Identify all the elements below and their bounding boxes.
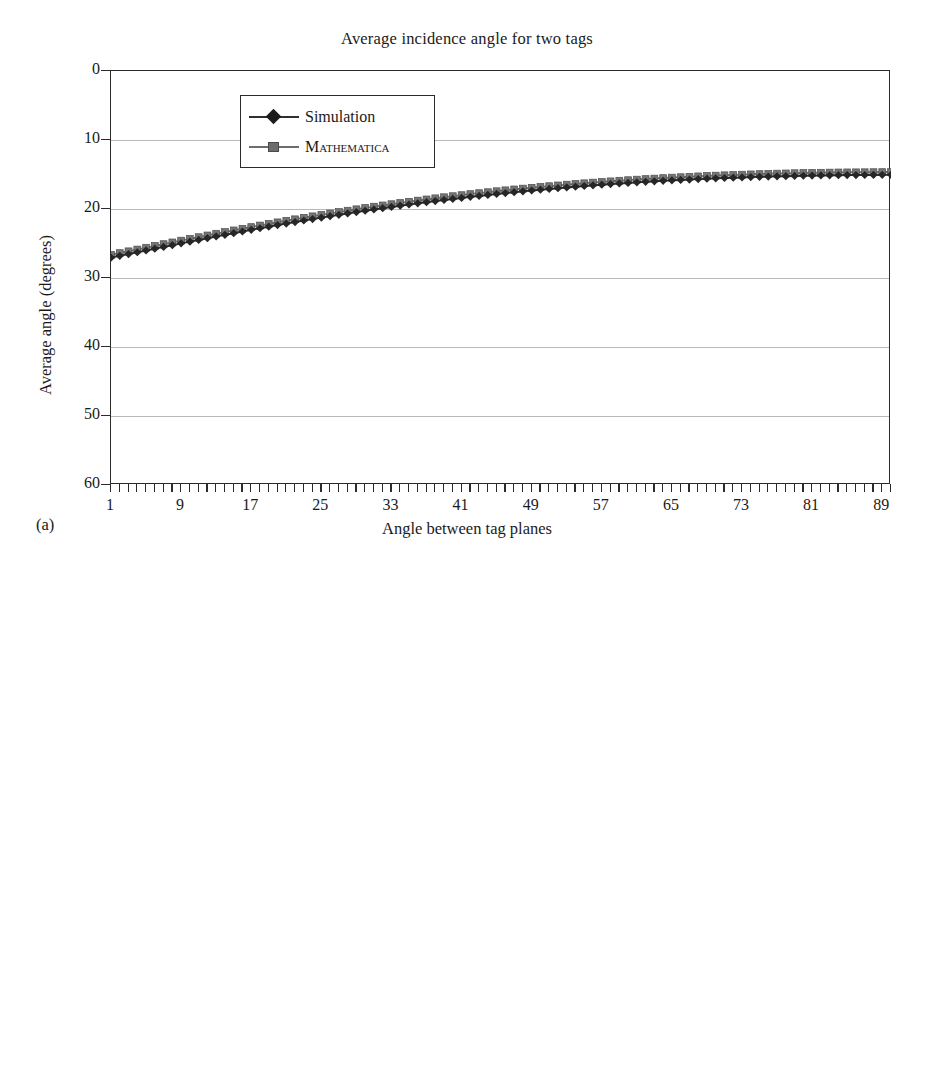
y-tick-label: 60: [48, 475, 100, 491]
x-tick-minor: [469, 484, 470, 492]
y-tick-mark: [101, 277, 110, 278]
x-tick-minor: [776, 484, 777, 492]
x-tick-minor: [767, 484, 768, 492]
x-tick-minor: [136, 484, 137, 492]
x-tick-label: 17: [242, 496, 258, 514]
x-axis-title-a: Angle between tag planes: [0, 519, 934, 539]
x-tick-minor: [864, 484, 865, 492]
x-tick-minor: [426, 484, 427, 492]
x-tick-minor: [890, 484, 891, 492]
x-tick-minor: [504, 484, 505, 492]
x-tick-minor: [802, 484, 803, 492]
y-tick-mark: [101, 70, 110, 71]
x-tick-minor: [443, 484, 444, 492]
x-tick-minor: [522, 484, 523, 492]
x-tick-minor: [680, 484, 681, 492]
x-tick-minor: [241, 484, 242, 492]
x-tick-minor: [715, 484, 716, 492]
x-tick-minor: [539, 484, 540, 492]
y-tick-label: 50: [48, 406, 100, 422]
series-layer-a: [111, 71, 889, 483]
x-tick-minor: [128, 484, 129, 492]
x-tick-minor: [653, 484, 654, 492]
x-tick-minor: [574, 484, 575, 492]
x-tick-minor: [364, 484, 365, 492]
x-tick-minor: [785, 484, 786, 492]
x-tick-minor: [610, 484, 611, 492]
x-tick-minor: [171, 484, 172, 492]
x-tick-minor: [662, 484, 663, 492]
x-tick-label: 57: [593, 496, 609, 514]
y-tick-mark: [101, 484, 110, 485]
subfigure-label-a: (a): [36, 515, 54, 535]
x-tick-minor: [259, 484, 260, 492]
x-tick-minor: [636, 484, 637, 492]
y-tick-label: 10: [48, 130, 100, 146]
x-tick-minor: [759, 484, 760, 492]
legend-label-simulation: Simulation: [305, 108, 375, 126]
x-tick-label: 9: [176, 496, 184, 514]
x-tick-minor: [373, 484, 374, 492]
x-tick-minor: [487, 484, 488, 492]
x-tick-minor: [645, 484, 646, 492]
x-tick-minor: [320, 484, 321, 492]
x-tick-minor: [732, 484, 733, 492]
x-tick-minor: [820, 484, 821, 492]
figure-root: Average incidence angle for two tags 010…: [0, 0, 934, 1086]
x-tick-minor: [513, 484, 514, 492]
y-tick-mark: [101, 346, 110, 347]
x-tick-minor: [601, 484, 602, 492]
x-tick-minor: [723, 484, 724, 492]
x-tick-minor: [215, 484, 216, 492]
x-tick-minor: [347, 484, 348, 492]
x-tick-minor: [627, 484, 628, 492]
x-tick-minor: [189, 484, 190, 492]
x-tick-minor: [496, 484, 497, 492]
x-tick-minor: [417, 484, 418, 492]
plot-area-a: [110, 70, 890, 484]
legend-item-mathematica: Mathematica: [249, 132, 426, 162]
y-tick-mark: [101, 415, 110, 416]
x-tick-minor: [355, 484, 356, 492]
x-tick-minor: [329, 484, 330, 492]
x-tick-minor: [478, 484, 479, 492]
x-tick-minor: [452, 484, 453, 492]
x-tick-minor: [548, 484, 549, 492]
x-tick-minor: [233, 484, 234, 492]
x-tick-minor: [531, 484, 532, 492]
x-tick-label: 33: [382, 496, 398, 514]
x-tick-label: 81: [803, 496, 819, 514]
x-tick-label: 73: [733, 496, 749, 514]
x-tick-label: 1: [106, 496, 114, 514]
series-plot-a: [111, 71, 891, 485]
panel-b: Computation difference 0.0250.0200.0150.…: [0, 556, 934, 1086]
x-tick-minor: [408, 484, 409, 492]
x-tick-minor: [706, 484, 707, 492]
x-tick-minor: [224, 484, 225, 492]
x-tick-minor: [837, 484, 838, 492]
x-tick-minor: [566, 484, 567, 492]
x-tick-minor: [338, 484, 339, 492]
x-tick-minor: [312, 484, 313, 492]
panel-a: Average incidence angle for two tags 010…: [0, 0, 934, 556]
x-tick-minor: [811, 484, 812, 492]
x-tick-label: 89: [873, 496, 889, 514]
x-tick-label: 65: [663, 496, 679, 514]
x-tick-label: 25: [312, 496, 328, 514]
x-tick-minor: [250, 484, 251, 492]
x-tick-minor: [583, 484, 584, 492]
chart-title-a: Average incidence angle for two tags: [0, 29, 934, 49]
x-tick-minor: [390, 484, 391, 492]
x-tick-minor: [557, 484, 558, 492]
x-tick-minor: [154, 484, 155, 492]
y-axis-label-a: Average angle (degrees): [36, 235, 56, 395]
legend-item-simulation: Simulation: [249, 102, 426, 132]
diamond-marker-icon: [249, 110, 299, 124]
x-tick-minor: [592, 484, 593, 492]
x-tick-minor: [872, 484, 873, 492]
x-tick-minor: [618, 484, 619, 492]
x-tick-minor: [145, 484, 146, 492]
x-tick-minor: [163, 484, 164, 492]
x-tick-minor: [461, 484, 462, 492]
x-tick-label: 49: [523, 496, 539, 514]
